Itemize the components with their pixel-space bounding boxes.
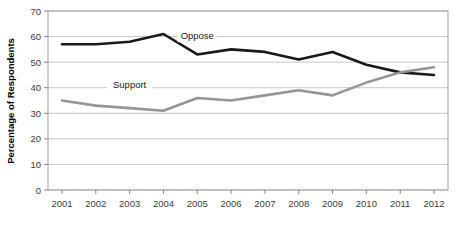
y-tick-label: 40 (30, 82, 41, 93)
y-axis-title: Percentage of Respondents (5, 38, 16, 164)
series-labels: OpposeSupport (107, 30, 217, 91)
x-tick-label: 2002 (85, 198, 106, 209)
y-tick-label: 50 (30, 57, 41, 68)
x-tick-label: 2009 (322, 198, 343, 209)
series-label-support: Support (113, 79, 147, 90)
y-tick-label: 30 (30, 108, 41, 119)
series-lines (62, 34, 434, 111)
y-tick-label: 20 (30, 133, 41, 144)
plot-area-border (48, 11, 448, 190)
x-tick-label: 2007 (254, 198, 275, 209)
y-tick-label: 70 (30, 6, 41, 17)
series-label-oppose: Oppose (181, 30, 214, 41)
x-tick-label: 2005 (187, 198, 208, 209)
x-tick-label: 2004 (153, 198, 174, 209)
y-axis-ticks: 010203040506070 (30, 6, 48, 196)
y-axis-title-text: Percentage of Respondents (5, 38, 16, 164)
x-tick-label: 2003 (119, 198, 140, 209)
y-tick-label: 0 (36, 185, 41, 196)
x-tick-label: 2008 (288, 198, 309, 209)
chart-container: Percentage of Respondents 01020304050607… (0, 0, 464, 228)
gridlines (48, 11, 448, 190)
y-tick-label: 60 (30, 31, 41, 42)
line-chart: Percentage of Respondents 01020304050607… (0, 0, 464, 228)
x-tick-label: 2012 (423, 198, 444, 209)
x-tick-label: 2001 (51, 198, 72, 209)
x-tick-label: 2006 (221, 198, 242, 209)
x-tick-label: 2010 (356, 198, 377, 209)
x-tick-label: 2011 (390, 198, 410, 209)
y-tick-label: 10 (30, 159, 41, 170)
series-line-oppose (62, 34, 434, 75)
x-axis-ticks: 2001200220032004200520062007200820092010… (51, 190, 444, 209)
